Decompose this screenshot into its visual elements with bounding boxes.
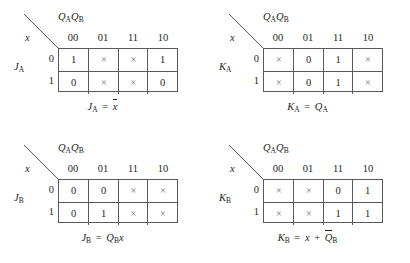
- column-header-11: 11: [118, 30, 148, 46]
- kmap-cell-01-0: ×: [293, 180, 323, 202]
- row-header-0: 0: [245, 48, 259, 70]
- kmap-row: 1××1: [59, 49, 177, 71]
- kmap-equation: KB = x + QB: [278, 231, 338, 246]
- kmap-grid: 1××10××0: [58, 48, 178, 92]
- kmap-cell-11-1: 1: [323, 72, 353, 94]
- kmap-equation: JB = QBx: [81, 231, 123, 246]
- row-variable-label: x: [25, 164, 30, 175]
- column-variable-label: QAQB: [263, 12, 289, 23]
- kmap-row: 01××: [59, 202, 177, 225]
- row-headers: 01: [245, 179, 259, 223]
- kmap-corner-header: QAQBx: [227, 8, 267, 48]
- row-variable-label: x: [230, 164, 235, 175]
- column-header-10: 10: [353, 30, 383, 46]
- kmap-cell-10-1: 0: [147, 72, 177, 94]
- row-header-1: 1: [40, 201, 54, 223]
- column-headers: 00011110: [58, 161, 178, 177]
- column-variable-label: QAQB: [58, 143, 84, 154]
- output-variable-ka: KA: [219, 62, 231, 73]
- column-headers: 00011110: [263, 30, 383, 46]
- kmap-cell-00-0: 1: [59, 49, 88, 71]
- output-variable-kb: KB: [219, 193, 231, 204]
- row-header-0: 0: [40, 179, 54, 201]
- row-headers: 01: [245, 48, 259, 92]
- equals-sign: =: [91, 232, 106, 243]
- row-header-0: 0: [245, 179, 259, 201]
- kmap-grid: ×01××01×: [263, 48, 383, 92]
- kmap-row: ×01×: [264, 71, 382, 94]
- column-headers: 00011110: [263, 161, 383, 177]
- kmap-cell-01-1: ×: [293, 203, 323, 225]
- kmap-cell-11-0: ×: [118, 180, 148, 202]
- kmap-cell-00-0: ×: [264, 180, 293, 202]
- row-header-1: 1: [40, 70, 54, 92]
- kmap-grid: 00××01××: [58, 179, 178, 223]
- row-variable-label: x: [25, 33, 30, 44]
- equals-sign: =: [300, 101, 315, 112]
- kmap-row: 0××0: [59, 71, 177, 94]
- kmap-cell-01-1: 0: [293, 72, 323, 94]
- kmap-cell-01-0: 0: [88, 180, 118, 202]
- kmap-cell-11-0: ×: [118, 49, 148, 71]
- kmap-corner-header: QAQBx: [227, 139, 267, 179]
- kmap-cell-00-0: 0: [59, 180, 88, 202]
- kmap-cell-00-0: ×: [264, 49, 293, 71]
- kmap-caption-kb: KB = x + QB: [205, 231, 410, 246]
- column-headers: 00011110: [58, 30, 178, 46]
- kmap-cell-00-1: ×: [264, 72, 293, 94]
- kmap-cell-10-0: ×: [352, 49, 382, 71]
- kmap-row: ××01: [264, 180, 382, 202]
- kmap-corner-header: QAQBx: [22, 139, 62, 179]
- column-header-11: 11: [118, 161, 148, 177]
- kmap-cell-11-0: 0: [323, 180, 353, 202]
- kmap-caption-jb: JB = QBx: [0, 231, 205, 246]
- kmap-cell-10-1: ×: [352, 72, 382, 94]
- row-header-0: 0: [40, 48, 54, 70]
- column-variable-label: QAQB: [58, 12, 84, 23]
- column-header-00: 00: [263, 30, 293, 46]
- kmap-grid: ××01××11: [263, 179, 383, 223]
- kmap-cell-01-1: ×: [88, 72, 118, 94]
- kmap-cell-10-1: 1: [352, 203, 382, 225]
- column-header-01: 01: [88, 161, 118, 177]
- column-header-01: 01: [88, 30, 118, 46]
- kmap-equation: KA = QA: [287, 100, 328, 115]
- kmap-cell-10-0: ×: [147, 180, 177, 202]
- plus-sign: +: [310, 232, 325, 243]
- kmap-cell-11-1: 1: [323, 203, 353, 225]
- kmap-cell-11-0: 1: [323, 49, 353, 71]
- output-variable-jb: JB: [14, 193, 24, 204]
- kmap-cell-00-1: 0: [59, 203, 88, 225]
- row-headers: 01: [40, 179, 54, 223]
- kmap-ja: QAQBx00011110JA011××10××0JA = x: [0, 0, 205, 131]
- kmap-cell-01-1: 1: [88, 203, 118, 225]
- kmap-cell-10-0: 1: [352, 180, 382, 202]
- kmap-cell-01-0: 0: [293, 49, 323, 71]
- kmap-equation: JA = x: [88, 100, 118, 115]
- kmap-cell-00-1: 0: [59, 72, 88, 94]
- row-header-1: 1: [245, 201, 259, 223]
- column-header-11: 11: [323, 161, 353, 177]
- output-variable-ja: JA: [14, 62, 24, 73]
- column-header-11: 11: [323, 30, 353, 46]
- row-header-1: 1: [245, 70, 259, 92]
- kmap-row: ××11: [264, 202, 382, 225]
- column-header-10: 10: [148, 161, 178, 177]
- column-header-10: 10: [148, 30, 178, 46]
- kmap-cell-10-1: ×: [147, 203, 177, 225]
- equals-sign: =: [290, 232, 305, 243]
- column-header-00: 00: [263, 161, 293, 177]
- kmap-jb: QAQBx00011110JB0100××01××JB = QBx: [0, 131, 205, 262]
- kmap-cell-10-0: 1: [147, 49, 177, 71]
- kmap-cell-11-1: ×: [118, 203, 148, 225]
- kmap-kb: QAQBx00011110KB01××01××11KB = x + QB: [205, 131, 410, 262]
- row-variable-label: x: [230, 33, 235, 44]
- kmap-cell-11-1: ×: [118, 72, 148, 94]
- kmap-row: ×01×: [264, 49, 382, 71]
- column-header-01: 01: [293, 30, 323, 46]
- kmap-cell-00-1: ×: [264, 203, 293, 225]
- column-header-01: 01: [293, 161, 323, 177]
- column-header-00: 00: [58, 161, 88, 177]
- kmap-row: 00××: [59, 180, 177, 202]
- kmap-ka: QAQBx00011110KA01×01××01×KA = QA: [205, 0, 410, 131]
